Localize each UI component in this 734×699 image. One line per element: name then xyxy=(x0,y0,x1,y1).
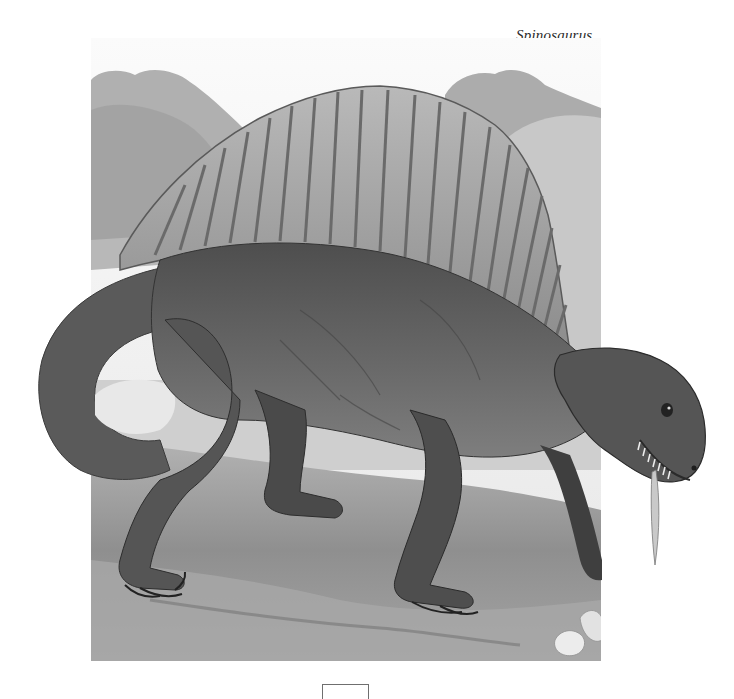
nostril xyxy=(692,466,697,471)
fish-in-mouth xyxy=(651,470,659,565)
page-number-box xyxy=(322,684,369,699)
eye xyxy=(661,403,673,417)
